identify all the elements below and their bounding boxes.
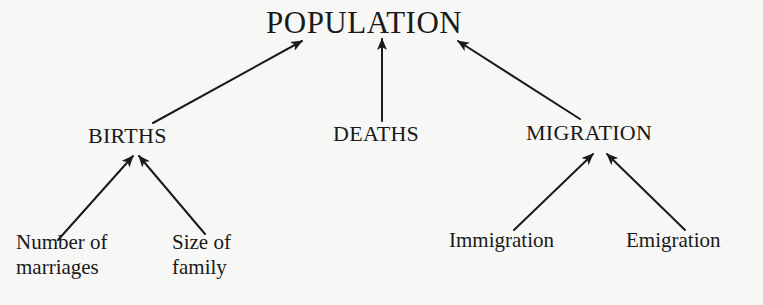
population-diagram: POPULATION BIRTHS DEATHS MIGRATION Numbe… <box>0 0 763 305</box>
leaf-label-line: Emigration <box>626 228 720 253</box>
arrow-migration-to-population <box>458 41 580 119</box>
leaf-label-line: Immigration <box>449 228 554 253</box>
node-migration: MIGRATION <box>526 122 652 144</box>
node-births: BIRTHS <box>88 125 167 147</box>
arrows-layer <box>0 0 763 305</box>
node-population: POPULATION <box>266 7 462 38</box>
arrow-births-to-population <box>153 41 302 123</box>
leaf-label-line: marriages <box>16 255 108 280</box>
arrow-marriages-to-births <box>58 156 133 240</box>
node-emigration: Emigration <box>626 228 720 253</box>
node-deaths: DEATHS <box>333 123 419 145</box>
node-size-of-family: Size of family <box>172 230 231 280</box>
arrow-family-to-births <box>139 156 205 234</box>
leaf-label-line: Size of <box>172 230 231 255</box>
arrow-immigration-to-migration <box>514 154 593 230</box>
node-number-of-marriages: Number of marriages <box>16 230 108 280</box>
leaf-label-line: Number of <box>16 230 108 255</box>
arrow-emigration-to-migration <box>607 154 685 230</box>
node-immigration: Immigration <box>449 228 554 253</box>
leaf-label-line: family <box>172 255 231 280</box>
